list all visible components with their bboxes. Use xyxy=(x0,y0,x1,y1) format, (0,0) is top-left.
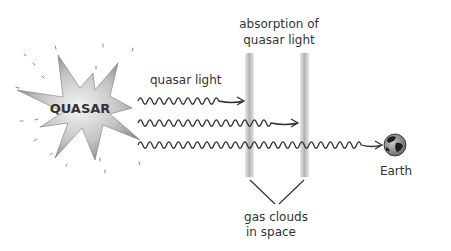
quasar-label: QUASAR xyxy=(50,101,111,116)
light-rays xyxy=(138,97,382,149)
gas-cloud-pointer xyxy=(250,180,304,204)
quasar-light-label: quasar light xyxy=(150,73,222,87)
earth-icon xyxy=(384,134,406,156)
earth-label: Earth xyxy=(380,164,412,178)
light-ray-short xyxy=(138,97,244,105)
absorption-label-line1: absorption of xyxy=(239,17,319,31)
gas-cloud-1 xyxy=(245,53,254,177)
gas-cloud-2 xyxy=(300,53,309,177)
absorption-label-line2: quasar light xyxy=(243,33,315,47)
light-ray-long xyxy=(138,141,382,149)
gas-clouds-label-line1: gas clouds xyxy=(244,210,308,224)
light-ray-medium xyxy=(138,119,298,127)
gas-clouds-label-line2: in space xyxy=(246,225,296,239)
quasar-absorption-diagram: QUASAR quasar light absorption of quasar… xyxy=(0,0,451,251)
